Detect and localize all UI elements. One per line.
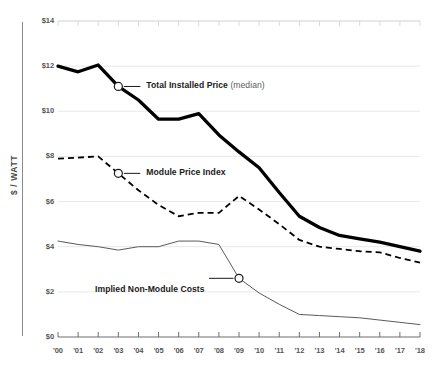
- x-axis-tick-label: '08: [208, 346, 230, 355]
- x-axis-tick-label: '06: [168, 346, 190, 355]
- y-axis-tick-label: $0: [28, 332, 54, 341]
- x-axis-tick-label: '03: [107, 346, 129, 355]
- x-axis-tick-label: '01: [67, 346, 89, 355]
- y-axis-tick-label: $4: [28, 242, 54, 251]
- x-axis-tick-label: '16: [369, 346, 391, 355]
- y-axis-tick-label: $8: [28, 151, 54, 160]
- x-axis-tick-label: '12: [288, 346, 310, 355]
- series-label-total-main: Total Installed Price: [146, 80, 228, 90]
- y-axis-tick-label: $14: [28, 16, 54, 25]
- y-axis-tick-label: $2: [28, 287, 54, 296]
- series-label-implied-non-module-costs: Implied Non-Module Costs: [95, 284, 205, 294]
- x-axis-tick-label: '09: [228, 346, 250, 355]
- series-line-total-installed-price-median: [58, 65, 420, 251]
- series-label-total-installed-price: Total Installed Price (median): [146, 80, 264, 90]
- callout-marker: [114, 82, 122, 90]
- x-axis-tick-label: '05: [148, 346, 170, 355]
- x-axis-tick-label: '10: [248, 346, 270, 355]
- series-label-module-price-index: Module Price Index: [146, 167, 225, 177]
- y-axis-tick-label: $6: [28, 197, 54, 206]
- plot-area: [0, 0, 443, 377]
- y-axis-tick-label: $12: [28, 61, 54, 70]
- series-label-total-sub: (median): [230, 80, 264, 90]
- callout-marker: [235, 274, 243, 282]
- x-axis-tick-label: '17: [389, 346, 411, 355]
- series-label-nonmodule-main: Implied Non-Module Costs: [95, 284, 205, 294]
- callout-marker: [114, 169, 122, 177]
- x-axis-tick-label: '14: [329, 346, 351, 355]
- x-axis-tick-label: '15: [349, 346, 371, 355]
- y-axis-tick-label: $10: [28, 106, 54, 115]
- x-axis-tick-label: '00: [47, 346, 69, 355]
- series-label-module-main: Module Price Index: [146, 167, 225, 177]
- chart-container: $ / WATT $0$2$4$6$8$10$12$14 '00'01'02'0…: [0, 0, 443, 377]
- x-axis-tick-label: '07: [188, 346, 210, 355]
- x-axis-tick-label: '18: [409, 346, 431, 355]
- x-axis-tick-label: '13: [308, 346, 330, 355]
- x-axis-tick-label: '04: [127, 346, 149, 355]
- x-axis-tick-label: '02: [87, 346, 109, 355]
- x-axis-tick-label: '11: [268, 346, 290, 355]
- callout-leaders: [124, 86, 234, 278]
